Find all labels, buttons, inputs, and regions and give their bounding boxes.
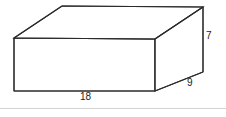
rectangular-prism-figure (0, 0, 226, 117)
figure-screenshot: 7 9 18 (0, 0, 226, 117)
width-dimension-label: 18 (80, 91, 91, 102)
bottom-divider (0, 108, 226, 109)
height-dimension-label: 7 (206, 30, 212, 41)
prism-front-face (14, 38, 155, 91)
depth-dimension-label: 9 (187, 77, 193, 88)
